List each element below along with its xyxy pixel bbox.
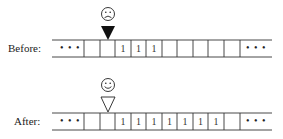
right-ellipsis: • • • [246, 42, 267, 53]
before-label: Before: [8, 42, 41, 54]
tape-cell: 1 [152, 116, 157, 127]
tape-head-filled-icon [101, 26, 115, 40]
happy-face-icon [102, 79, 115, 92]
tape-cell: 1 [136, 116, 141, 127]
left-ellipsis: • • • [60, 115, 81, 126]
after-row: After: • • • • • • [14, 79, 272, 131]
turing-machine-diagram: Before: • • • • • • [0, 0, 283, 139]
tape-cell-dividers [84, 40, 240, 57]
right-ellipsis: • • • [246, 115, 267, 126]
tape-cell: 1 [183, 116, 188, 127]
left-ellipsis: • • • [60, 42, 81, 53]
tape-head-outline-icon [101, 97, 115, 112]
after-cells: 1 1 1 1 1 1 1 [121, 116, 219, 127]
tape-cell: 1 [198, 116, 203, 127]
after-label: After: [14, 115, 40, 127]
tape-cell: 1 [136, 43, 141, 54]
tape-cell: 1 [121, 43, 126, 54]
tape-cell: 1 [214, 116, 219, 127]
sad-face-icon [102, 8, 115, 21]
before-row: Before: • • • • • • [8, 8, 272, 58]
tape-cell: 1 [152, 43, 157, 54]
tape-cell: 1 [167, 116, 172, 127]
before-cells: 1 1 1 [121, 43, 157, 54]
tape-cell: 1 [121, 116, 126, 127]
